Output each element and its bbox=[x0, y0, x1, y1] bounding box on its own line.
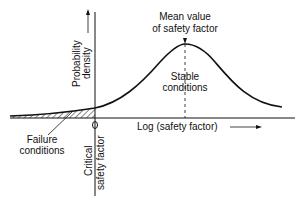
safety-factor-diagram: Probability density Mean value of safety… bbox=[0, 0, 305, 200]
critical-label-line1: Critical bbox=[83, 145, 94, 176]
failure-label-line1: Failure bbox=[27, 134, 58, 145]
mean-label-line1: Mean value bbox=[159, 11, 211, 22]
failure-label-line2: conditions bbox=[19, 145, 64, 156]
x-axis-label: Log (safety factor) bbox=[137, 121, 218, 132]
x-axis-arrow-icon bbox=[256, 125, 262, 129]
mean-arrow-icon bbox=[183, 38, 187, 44]
stable-label-line1: Stable bbox=[171, 71, 200, 82]
y-axis-label-line2: density bbox=[81, 47, 92, 79]
probability-curve bbox=[10, 44, 282, 116]
mean-label-line2: of safety factor bbox=[152, 23, 218, 34]
critical-label-line2: safety factor bbox=[95, 135, 106, 190]
stable-label-line2: conditions bbox=[162, 82, 207, 93]
y-axis-arrow-icon bbox=[86, 9, 90, 15]
